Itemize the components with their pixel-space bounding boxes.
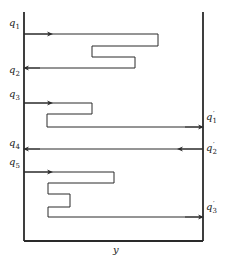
flow-path-q3-q1prime: [24, 103, 201, 127]
label-q5: q5: [9, 156, 20, 170]
axis-label-y: y: [112, 244, 119, 255]
label-q3: q3: [9, 88, 20, 102]
label-q2: q2: [9, 64, 20, 78]
flow-diagram: q1 q2 q3 q4 q5 q1′ q2′ q3′ y: [0, 0, 227, 267]
label-q1-prime: q1′: [206, 110, 217, 125]
label-q3-prime: q3′: [206, 200, 217, 215]
label-q4: q4: [9, 137, 20, 151]
label-q1: q1: [9, 17, 20, 31]
label-q2-prime: q2′: [206, 141, 217, 156]
flow-path-q1-q2: [24, 34, 158, 68]
flow-path-q5-q3prime: [24, 172, 201, 217]
